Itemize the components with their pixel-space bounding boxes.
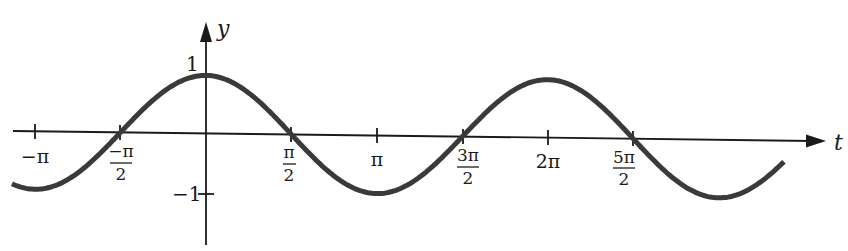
svg-text:2: 2 <box>619 169 630 189</box>
svg-text:π: π <box>371 148 384 170</box>
x-tick-2pi: 2π <box>536 130 561 172</box>
svg-text:2: 2 <box>116 164 127 184</box>
y-tick-label-1: 1 <box>186 52 199 76</box>
x-axis <box>13 131 812 141</box>
y-axis-label: y <box>216 16 230 41</box>
svg-text:5π: 5π <box>613 147 635 167</box>
svg-text:3π: 3π <box>457 145 479 165</box>
y-axis-arrow-icon <box>200 22 212 42</box>
x-axis-label: t <box>834 130 843 155</box>
svg-text:2π: 2π <box>536 150 561 172</box>
x-axis-arrow-icon <box>806 135 826 148</box>
svg-text:2: 2 <box>284 165 295 185</box>
svg-text:π: π <box>283 142 294 162</box>
cosine-chart: t y 1 −1 −π −π 2 π 2 π 3π 2 2π 5π 2 <box>0 0 848 251</box>
y-tick-label-neg1: −1 <box>172 182 201 206</box>
svg-text:2: 2 <box>463 168 474 188</box>
x-tick-pi: π <box>371 128 384 170</box>
svg-text:−π: −π <box>21 145 49 167</box>
